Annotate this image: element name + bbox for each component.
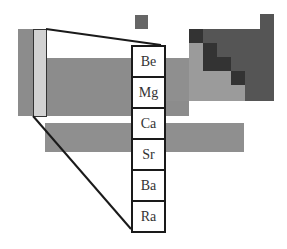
group2-element-list: Be Mg Ca Sr Ba Ra xyxy=(131,45,166,233)
element-cell-mg: Mg xyxy=(133,78,164,109)
element-cell-sr: Sr xyxy=(133,140,164,171)
element-cell-be: Be xyxy=(133,47,164,78)
element-cell-ra: Ra xyxy=(133,202,164,231)
element-cell-ba: Ba xyxy=(133,171,164,202)
element-cell-ca: Ca xyxy=(133,109,164,140)
